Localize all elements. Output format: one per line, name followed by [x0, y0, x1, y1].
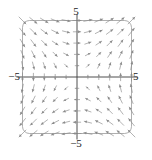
vector-arrow	[97, 86, 100, 91]
vector-arrow-head	[21, 79, 24, 82]
vector-arrow	[85, 109, 91, 112]
vector-arrow	[52, 30, 59, 34]
vector-arrow	[43, 63, 46, 69]
vector-arrow	[62, 31, 69, 34]
vector-arrow-head	[75, 87, 77, 89]
vector-arrow-head	[41, 122, 44, 125]
vector-arrow	[97, 52, 101, 56]
vector-arrow	[96, 109, 102, 113]
vector-arrow	[95, 30, 102, 34]
vector-arrow	[106, 120, 113, 125]
vector-arrow	[64, 53, 69, 56]
vector-arrow-head	[110, 29, 113, 32]
vector-arrow-head	[119, 73, 122, 76]
vector-arrow-head	[84, 121, 87, 124]
vector-arrow	[53, 97, 57, 101]
vector-arrow-head	[87, 75, 89, 77]
vector-arrow-head	[67, 31, 70, 34]
vector-arrow	[85, 98, 90, 101]
vector-field-figure: 5 −5 −5 5	[0, 0, 152, 160]
vector-arrow	[32, 85, 35, 92]
vector-arrow	[53, 52, 57, 56]
vector-field-plot-area	[0, 0, 152, 160]
vector-arrow-head	[73, 121, 76, 124]
vector-arrow	[65, 87, 68, 90]
vector-arrow	[65, 64, 68, 67]
vector-arrow	[119, 62, 122, 69]
vector-arrow	[106, 29, 113, 34]
vector-arrow	[84, 30, 91, 33]
vector-arrow	[41, 29, 48, 34]
vector-arrow	[85, 42, 91, 45]
vector-arrow	[128, 17, 135, 24]
vector-arrow	[32, 51, 36, 58]
vector-arrow	[118, 108, 123, 115]
vector-arrow-head	[118, 108, 121, 111]
vector-arrow	[54, 86, 57, 91]
vector-arrow-head	[33, 43, 36, 46]
vector-arrow-head	[32, 78, 35, 81]
vector-arrow	[43, 85, 46, 91]
vector-arrow	[108, 97, 112, 103]
vector-arrow	[32, 96, 36, 103]
vector-arrow-head	[98, 74, 100, 76]
vector-arrow	[77, 77, 78, 78]
vector-arrow	[128, 130, 135, 137]
vector-arrow	[19, 130, 26, 137]
vector-arrow	[31, 108, 36, 115]
vector-arrow	[42, 51, 46, 57]
vector-arrow-head	[108, 74, 111, 77]
vector-arrow	[118, 29, 124, 35]
vector-arrow	[119, 85, 122, 92]
vector-arrow	[52, 41, 58, 45]
vector-arrow-head	[74, 98, 76, 100]
vector-arrow-head	[45, 32, 48, 35]
vector-arrow-head	[78, 30, 81, 33]
vector-arrow-head	[74, 109, 77, 112]
vector-arrow	[119, 51, 123, 58]
vector-arrow-head	[130, 73, 133, 76]
vector-arrow	[32, 62, 35, 69]
vector-arrow	[62, 121, 69, 124]
vector-arrow-head	[119, 62, 122, 65]
vector-arrow	[118, 119, 124, 125]
vector-arrow	[109, 63, 112, 69]
vector-arrow	[30, 119, 36, 125]
vector-arrow	[63, 42, 69, 45]
vector-arrow-head	[32, 89, 35, 92]
vector-arrow-head	[54, 77, 56, 79]
vector-arrow-head	[106, 120, 109, 123]
vector-arrow	[119, 96, 123, 103]
vector-arrow-head	[89, 30, 92, 33]
vector-arrow	[97, 97, 101, 101]
vector-arrow	[118, 40, 123, 47]
vector-arrow-head	[62, 121, 65, 124]
vector-arrow	[107, 40, 112, 45]
vector-arrow	[108, 51, 112, 57]
vector-arrow	[42, 97, 46, 103]
vector-arrow	[84, 121, 91, 124]
vector-arrow	[86, 87, 89, 90]
vector-arrow	[52, 109, 58, 113]
vector-arrow	[31, 40, 36, 47]
vector-arrow	[95, 120, 102, 124]
vector-arrow-head	[120, 40, 123, 43]
vector-arrow	[108, 85, 111, 91]
vector-arrow	[64, 98, 69, 101]
vector-arrow	[30, 29, 36, 35]
vector-arrow-head	[43, 78, 46, 81]
vector-arrow	[41, 120, 48, 125]
vector-arrow-head	[31, 111, 34, 114]
vector-arrow	[42, 108, 47, 113]
vector-arrow-head	[79, 19, 82, 22]
vector-arrow-zero-dot	[77, 77, 78, 78]
vector-arrow	[54, 63, 57, 68]
vector-arrow	[19, 17, 26, 24]
vector-arrow-head	[77, 53, 79, 55]
vector-arrow	[96, 41, 102, 45]
vector-arrow-head	[73, 132, 76, 135]
vector-arrow	[98, 63, 101, 68]
vector-arrow	[85, 53, 90, 56]
vector-arrow-head	[65, 77, 67, 79]
vector-arrow	[86, 64, 89, 67]
